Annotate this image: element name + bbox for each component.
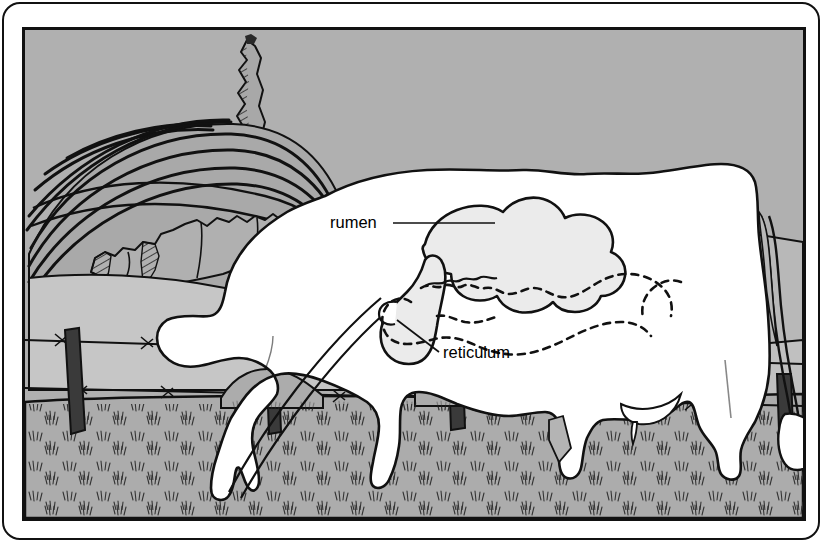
illustration-panel: rumen reticulum bbox=[22, 27, 806, 521]
label-rumen-text: rumen bbox=[330, 213, 377, 231]
page-root: rumen reticulum bbox=[0, 0, 827, 548]
label-reticulum-text: reticulum bbox=[443, 343, 510, 361]
scene-svg: rumen reticulum bbox=[25, 30, 803, 518]
